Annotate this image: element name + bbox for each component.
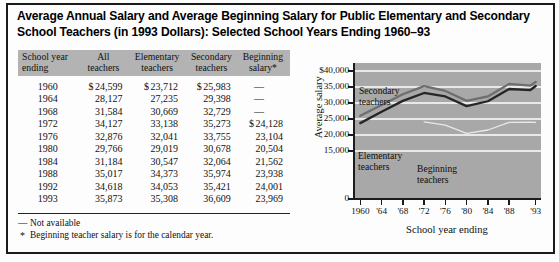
cell-school-year: 1992 bbox=[18, 180, 77, 192]
cell-beginning-salary: — bbox=[238, 105, 290, 117]
cell-beginning-salary: 24,001 bbox=[238, 180, 290, 192]
frame-left-rule bbox=[6, 3, 8, 254]
salary-table: School year ending All teachers Elementa… bbox=[18, 50, 290, 205]
table-body: 1960$24,599$23,712$25,983—196428,12727,2… bbox=[18, 76, 290, 205]
cell-beginning-salary: — bbox=[238, 93, 290, 105]
footnotes: —Not available *Beginning teacher salary… bbox=[18, 217, 298, 242]
cell-beginning-salary: $24,128 bbox=[238, 118, 290, 130]
cell-elementary-teachers: 35,308 bbox=[129, 192, 185, 204]
cell-secondary-teachers: 35,421 bbox=[185, 180, 238, 192]
cell-secondary-teachers: 32,729 bbox=[185, 105, 238, 117]
table-row: 197632,87632,04133,75523,104 bbox=[18, 130, 290, 142]
cell-all-teachers: 32,876 bbox=[77, 130, 129, 142]
series-label-secondary: Secondaryteachers bbox=[359, 86, 400, 107]
column-header-all-teachers: All teachers bbox=[77, 50, 129, 76]
column-header-elementary-teachers: Elementary teachers bbox=[129, 50, 185, 76]
cell-all-teachers: 35,873 bbox=[77, 192, 129, 204]
cell-secondary-teachers: 33,755 bbox=[185, 130, 238, 142]
x-tick-mark bbox=[508, 200, 509, 205]
cell-secondary-teachers: 35,273 bbox=[185, 118, 238, 130]
footnote-not-available: —Not available bbox=[18, 217, 298, 229]
cell-elementary-teachers: 30,547 bbox=[129, 155, 185, 167]
cell-school-year: 1988 bbox=[18, 167, 77, 179]
cell-elementary-teachers: $23,712 bbox=[129, 76, 185, 92]
cell-beginning-salary: 23,969 bbox=[238, 192, 290, 204]
table-row: 198835,01734,37335,97423,938 bbox=[18, 167, 290, 179]
x-tick-mark bbox=[535, 200, 536, 205]
frame-top-rule bbox=[6, 3, 555, 5]
cell-secondary-teachers: 36,609 bbox=[185, 192, 238, 204]
y-tick-label: 0 bbox=[344, 194, 349, 203]
table-row: 196428,12727,23529,398— bbox=[18, 93, 290, 105]
chart-plot-area: Secondaryteachers Elementaryteachers Beg… bbox=[355, 63, 541, 199]
cell-all-teachers: 31,184 bbox=[77, 155, 129, 167]
x-tick-mark bbox=[487, 200, 488, 205]
y-axis-line bbox=[353, 63, 355, 199]
cell-all-teachers: $24,599 bbox=[77, 76, 129, 92]
cell-elementary-teachers: 30,669 bbox=[129, 105, 185, 117]
cell-beginning-salary: — bbox=[238, 76, 290, 92]
table-row: 197234,12733,13835,273$24,128 bbox=[18, 118, 290, 130]
cell-school-year: 1976 bbox=[18, 130, 77, 142]
cell-secondary-teachers: 32,064 bbox=[185, 155, 238, 167]
cell-all-teachers: 35,017 bbox=[77, 167, 129, 179]
cell-beginning-salary: 23,938 bbox=[238, 167, 290, 179]
cell-school-year: 1964 bbox=[18, 93, 77, 105]
figure-title: Average Annual Salary and Average Beginn… bbox=[17, 9, 545, 40]
cell-school-year: 1972 bbox=[18, 118, 77, 130]
cell-elementary-teachers: 33,138 bbox=[129, 118, 185, 130]
x-tick-mark bbox=[402, 200, 403, 205]
x-tick-label: '93 bbox=[516, 207, 556, 216]
footnote-divider bbox=[18, 213, 290, 214]
asterisk-icon: * bbox=[20, 230, 25, 242]
column-header-beginning-salary: Beginning salary* bbox=[238, 50, 290, 76]
table-row: 198431,18430,54732,06421,562 bbox=[18, 155, 290, 167]
salary-table-container: School year ending All teachers Elementa… bbox=[18, 50, 290, 205]
salary-line-chart: Secondaryteachers Elementaryteachers Beg… bbox=[294, 50, 552, 250]
footnote-text: Beginning teacher salary is for the cale… bbox=[30, 230, 213, 240]
frame-bottom-rule bbox=[6, 252, 555, 254]
table-header-row: School year ending All teachers Elementa… bbox=[18, 50, 290, 76]
table-row: 199234,61834,05335,42124,001 bbox=[18, 180, 290, 192]
cell-secondary-teachers: $25,983 bbox=[185, 76, 238, 92]
y-tick-label: 20,000 bbox=[324, 130, 349, 139]
table-row: 198029,76629,01930,67820,504 bbox=[18, 143, 290, 155]
cell-secondary-teachers: 29,398 bbox=[185, 93, 238, 105]
em-dash-icon: — bbox=[18, 217, 27, 229]
y-tick-label: 35,000 bbox=[324, 82, 349, 91]
frame-right-rule bbox=[553, 3, 555, 254]
cell-all-teachers: 28,127 bbox=[77, 93, 129, 105]
cell-secondary-teachers: 35,974 bbox=[185, 167, 238, 179]
x-tick-mark bbox=[381, 200, 382, 205]
table-row: 1960$24,599$23,712$25,983— bbox=[18, 76, 290, 92]
cell-elementary-teachers: 34,373 bbox=[129, 167, 185, 179]
cell-beginning-salary: 21,562 bbox=[238, 155, 290, 167]
currency-symbol: $ bbox=[88, 81, 93, 92]
y-axis-title: Average salary bbox=[314, 62, 324, 152]
cell-secondary-teachers: 30,678 bbox=[185, 143, 238, 155]
footnote-text: Not available bbox=[30, 218, 80, 228]
x-axis-title: School year ending bbox=[353, 224, 541, 235]
column-header-secondary-teachers: Secondary teachers bbox=[185, 50, 238, 76]
column-header-school-year: School year ending bbox=[18, 50, 77, 76]
footnote-beginning-salary: *Beginning teacher salary is for the cal… bbox=[18, 229, 298, 241]
currency-symbol: $ bbox=[249, 118, 254, 129]
exhibit-figure: Average Annual Salary and Average Beginn… bbox=[0, 0, 559, 262]
cell-school-year: 1960 bbox=[18, 76, 77, 92]
currency-symbol: $ bbox=[197, 81, 202, 92]
table-row: 196831,58430,66932,729— bbox=[18, 105, 290, 117]
currency-symbol: $ bbox=[144, 81, 149, 92]
table-header: School year ending All teachers Elementa… bbox=[18, 50, 290, 76]
cell-all-teachers: 31,584 bbox=[77, 105, 129, 117]
cell-elementary-teachers: 29,019 bbox=[129, 143, 185, 155]
cell-all-teachers: 34,127 bbox=[77, 118, 129, 130]
x-tick-mark bbox=[445, 200, 446, 205]
y-tick-label: 30,000 bbox=[324, 98, 349, 107]
x-tick-mark bbox=[466, 200, 467, 205]
cell-school-year: 1968 bbox=[18, 105, 77, 117]
series-line-beginning bbox=[424, 122, 536, 134]
cell-elementary-teachers: 27,235 bbox=[129, 93, 185, 105]
cell-all-teachers: 29,766 bbox=[77, 143, 129, 155]
table-row: 199335,87335,30836,60923,969 bbox=[18, 192, 290, 204]
x-tick-mark bbox=[423, 200, 424, 205]
